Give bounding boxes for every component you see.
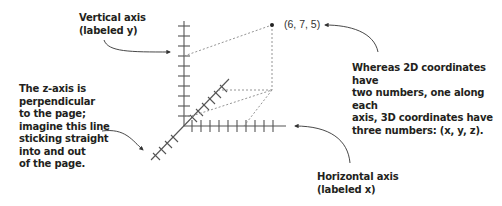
y-axis (178, 21, 190, 126)
z-axis-label: The z-axis is perpendicular to the page;… (19, 83, 110, 171)
z-axis (151, 79, 229, 160)
arrow-horizontal-axis (295, 126, 350, 163)
point-coordinate-label: (6, 7, 5) (284, 18, 320, 30)
vertical-axis-label: Vertical axis (labeled y) (79, 12, 146, 37)
arrow-point (325, 25, 378, 52)
arrow-vertical-axis (104, 40, 170, 52)
coordinates-note-label: Whereas 2D coordinates have two numbers,… (352, 62, 502, 137)
point-6-7-5 (270, 23, 274, 27)
horizontal-axis-label: Horizontal axis (labeled x) (317, 171, 398, 196)
x-axis (184, 120, 286, 132)
